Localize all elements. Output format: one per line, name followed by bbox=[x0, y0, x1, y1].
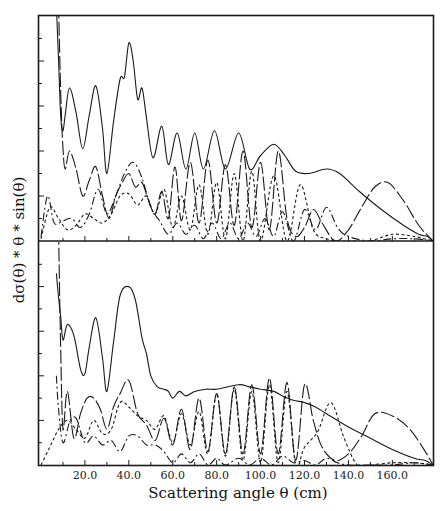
lower-component-short-dash-curve bbox=[41, 385, 433, 468]
x-tick-label: 60.0 bbox=[161, 469, 186, 482]
scattering-chart: 20.040.060.080.0100.0120.0140.0160.0 Sca… bbox=[0, 0, 445, 511]
y-axis-label: dσ(θ) * θ * sin(θ) bbox=[10, 177, 28, 304]
x-tick-label: 40.0 bbox=[117, 469, 142, 482]
x-tick-label: 20.0 bbox=[73, 469, 98, 482]
curves bbox=[41, 5, 433, 467]
x-tick-label: 120.0 bbox=[289, 469, 321, 482]
lower-total-curve bbox=[56, 273, 433, 465]
x-tick-label: 140.0 bbox=[333, 469, 365, 482]
x-tick-labels: 20.040.060.080.0100.0120.0140.0160.0 bbox=[73, 469, 408, 482]
x-tick-label: 160.0 bbox=[377, 469, 409, 482]
lower-component-long-dash-curve bbox=[59, 231, 433, 465]
x-tick-label: 80.0 bbox=[204, 469, 229, 482]
x-axis-label: Scattering angle θ (cm) bbox=[148, 484, 327, 502]
x-tick-label: 100.0 bbox=[245, 469, 277, 482]
axis-ticks bbox=[39, 39, 415, 466]
